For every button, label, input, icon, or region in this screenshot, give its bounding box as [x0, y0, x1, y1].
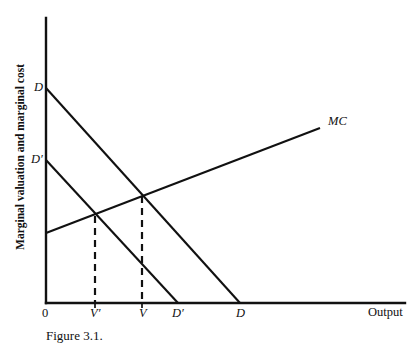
label-origin: 0: [42, 307, 48, 320]
y-axis-title: Marginal valuation and marginal cost: [6, 62, 34, 252]
label-x-tick-V-prime: V′: [90, 307, 100, 320]
figure-caption: Figure 3.1.: [46, 328, 103, 344]
marginal-cost-curve-MC: [46, 128, 320, 233]
label-demand-D-prime-intercept: D′: [31, 153, 43, 166]
label-x-intercept-D-prime: D′: [172, 307, 184, 320]
label-marginal-cost: MC: [328, 115, 347, 128]
x-axis-title: Output: [368, 306, 403, 319]
chart-canvas: [0, 0, 420, 350]
label-x-tick-V: V: [139, 307, 147, 320]
label-x-intercept-D: D: [236, 307, 245, 320]
y-axis-title-text: Marginal valuation and marginal cost: [14, 64, 26, 250]
label-demand-D-intercept: D: [34, 81, 43, 94]
figure-3-1: Marginal valuation and marginal cost D D…: [0, 0, 420, 350]
demand-curve-D-prime: [46, 160, 178, 303]
